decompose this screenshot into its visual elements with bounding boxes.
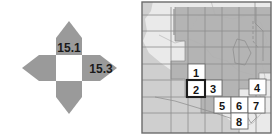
grid-cell-2-label: 2 bbox=[193, 84, 199, 96]
grid-cell-8-label: 8 bbox=[236, 116, 242, 128]
grid-cell-4-label: 4 bbox=[254, 82, 261, 94]
north-value-label: 15.1 bbox=[57, 41, 81, 55]
compass-diagram: 15.1 15.3 bbox=[0, 0, 139, 136]
california-grid-map: 1 2 3 4 5 6 7 8 bbox=[141, 1, 272, 134]
grid-cell-1-label: 1 bbox=[193, 67, 199, 79]
grid-cell-3-label: 3 bbox=[210, 83, 216, 95]
west-petal-icon bbox=[22, 55, 56, 81]
map-canvas: 1 2 3 4 5 6 7 8 bbox=[141, 1, 272, 134]
grid-cell-5-label: 5 bbox=[219, 100, 225, 112]
center-square bbox=[56, 55, 82, 81]
grid-cell-7-label: 7 bbox=[253, 100, 259, 112]
east-value-label: 15.3 bbox=[89, 62, 113, 76]
compass-diagram-canvas: 15.1 15.3 bbox=[0, 0, 139, 136]
south-petal-icon bbox=[56, 78, 82, 114]
grid-cell-6-label: 6 bbox=[236, 100, 242, 112]
